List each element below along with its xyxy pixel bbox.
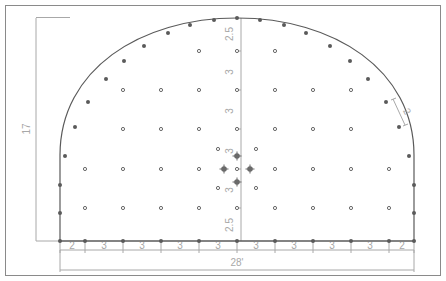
relief-hole-icon xyxy=(233,178,242,187)
vspace-label-4: 3 xyxy=(224,148,235,154)
width-dimension: 28' xyxy=(60,250,414,272)
vspace-label-5: 3 xyxy=(224,187,235,193)
drawing-frame xyxy=(6,6,441,276)
width-label: 28' xyxy=(230,257,243,268)
relief-hole-icon xyxy=(246,165,255,174)
floor-space-label: 3 xyxy=(139,240,145,251)
floor-space-label: 3 xyxy=(329,240,335,251)
floor-space-label: 3 xyxy=(367,240,373,251)
floor-space-label: 3 xyxy=(101,240,107,251)
vspace-label-2: 3 xyxy=(224,69,235,75)
vspace-label-3: 3 xyxy=(224,108,235,114)
relief-hole-icon xyxy=(220,165,229,174)
vspace-label-1: 2.5 xyxy=(224,27,235,41)
floor-space-label: 3 xyxy=(291,240,297,251)
tunnel-drill-pattern-diagram: 17 2.5 3 3 3 3 2.5 2 xyxy=(0,0,446,281)
floor-space-label: 2 xyxy=(69,240,75,251)
height-label: 17 xyxy=(21,123,32,135)
floor-space-label: 3 xyxy=(177,240,183,251)
floor-space-label: 3 xyxy=(215,240,221,251)
floor-space-label: 2 xyxy=(399,240,405,251)
vspace-label-6: 2.5 xyxy=(224,218,235,232)
floor-space-label: 3 xyxy=(253,240,259,251)
